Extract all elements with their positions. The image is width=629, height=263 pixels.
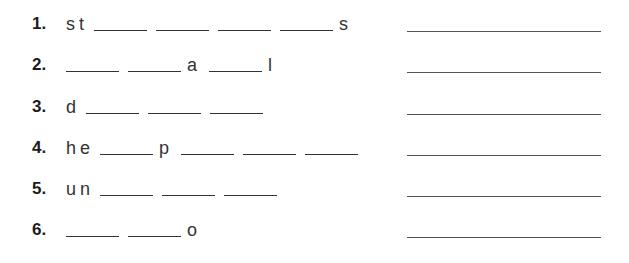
letter-blank[interactable] <box>148 113 201 114</box>
given-letter: p <box>159 138 169 158</box>
letter-blank[interactable] <box>218 30 271 31</box>
letter-blank[interactable] <box>100 154 153 155</box>
given-letter: o <box>187 220 197 240</box>
answer-line[interactable] <box>407 72 601 73</box>
given-letter: h <box>66 138 76 158</box>
letter-blank[interactable] <box>156 30 209 31</box>
letter-blank[interactable] <box>128 236 181 237</box>
letter-blank[interactable] <box>181 154 234 155</box>
letter-puzzle: sts <box>66 14 354 34</box>
given-letter: n <box>80 179 90 199</box>
worksheet-item-3: 3.d <box>0 97 629 127</box>
letter-puzzle: d <box>66 97 272 117</box>
letter-puzzle: o <box>66 220 203 240</box>
letter-puzzle: al <box>66 55 278 75</box>
letter-blank[interactable] <box>162 195 215 196</box>
letter-blank[interactable] <box>280 30 333 31</box>
item-number: 3. <box>32 97 46 117</box>
given-letter: t <box>79 14 84 34</box>
worksheet-item-5: 5.un <box>0 179 629 209</box>
letter-puzzle: hep <box>66 138 367 158</box>
given-letter: s <box>339 14 348 34</box>
letter-blank[interactable] <box>66 236 119 237</box>
letter-blank[interactable] <box>224 195 277 196</box>
item-number: 1. <box>32 14 46 34</box>
letter-blank[interactable] <box>305 154 358 155</box>
given-letter: d <box>66 97 76 117</box>
letter-blank[interactable] <box>94 30 147 31</box>
worksheet-item-1: 1.sts <box>0 14 629 44</box>
answer-line[interactable] <box>407 196 601 197</box>
letter-blank[interactable] <box>243 154 296 155</box>
letter-blank[interactable] <box>209 71 262 72</box>
item-number: 4. <box>32 138 46 158</box>
given-letter: s <box>66 14 75 34</box>
worksheet-item-4: 4.hep <box>0 138 629 168</box>
letter-blank[interactable] <box>128 71 181 72</box>
item-number: 5. <box>32 179 46 199</box>
answer-line[interactable] <box>407 31 601 32</box>
letter-puzzle: un <box>66 179 286 199</box>
letter-blank[interactable] <box>210 113 263 114</box>
answer-line[interactable] <box>407 237 601 238</box>
given-letter: u <box>66 179 76 199</box>
letter-blank[interactable] <box>86 113 139 114</box>
item-number: 6. <box>32 220 46 240</box>
worksheet-item-2: 2.al <box>0 55 629 85</box>
given-letter: l <box>268 55 272 75</box>
letter-blank[interactable] <box>100 195 153 196</box>
given-letter: e <box>80 138 90 158</box>
letter-blank[interactable] <box>66 71 119 72</box>
given-letter: a <box>187 55 197 75</box>
answer-line[interactable] <box>407 114 601 115</box>
worksheet-item-6: 6.o <box>0 220 629 250</box>
answer-line[interactable] <box>407 155 601 156</box>
item-number: 2. <box>32 55 46 75</box>
